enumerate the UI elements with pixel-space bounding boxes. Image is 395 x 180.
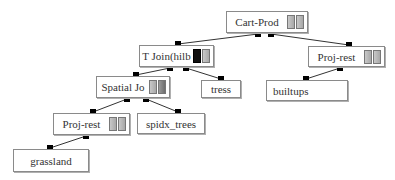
node-proj-rest-left[interactable]: Proj-rest [53, 113, 130, 135]
node-label: tress [202, 83, 240, 95]
node-label: Proj-rest [309, 51, 364, 63]
node-cart-prod[interactable]: Cart-Prod [226, 11, 308, 33]
node-label: grassland [14, 155, 88, 167]
cost-icon [296, 15, 304, 29]
node-grassland[interactable]: grassland [13, 149, 89, 172]
node-spatial-join[interactable]: Spatial Jo [96, 76, 170, 98]
statistics-icon [364, 50, 372, 64]
node-label: T Join(hilb [140, 50, 193, 62]
node-label: spidx_trees [138, 118, 204, 130]
node-proj-rest-right[interactable]: Proj-rest [308, 46, 385, 67]
edge-line [186, 68, 221, 79]
edge-line [93, 99, 127, 112]
query-plan-diagram: Cart-Prod T Join(hilb Proj-rest Spatial … [0, 0, 395, 180]
node-label: Cart-Prod [227, 16, 287, 28]
node-builtups[interactable]: builtups [266, 80, 348, 101]
node-label: Spatial Jo [97, 81, 149, 93]
cost-icon [202, 49, 210, 63]
statistics-icon [109, 117, 117, 131]
edge-line [306, 68, 340, 79]
edge-line [146, 99, 178, 112]
cost-icon [373, 50, 381, 64]
edge-line [271, 34, 349, 45]
edge-line [178, 34, 258, 44]
edge-line [136, 68, 170, 75]
node-label: Proj-rest [54, 118, 109, 130]
node-t-join[interactable]: T Join(hilb [139, 45, 214, 67]
cost-icon [158, 80, 166, 94]
statistics-icon [149, 80, 157, 94]
node-tress[interactable]: tress [201, 80, 241, 98]
node-label: builtups [267, 85, 347, 97]
edge-line [50, 136, 86, 148]
statistics-icon [287, 15, 295, 29]
cost-icon [118, 117, 126, 131]
node-spidx-trees[interactable]: spidx_trees [137, 113, 205, 134]
statistics-icon [193, 49, 201, 63]
